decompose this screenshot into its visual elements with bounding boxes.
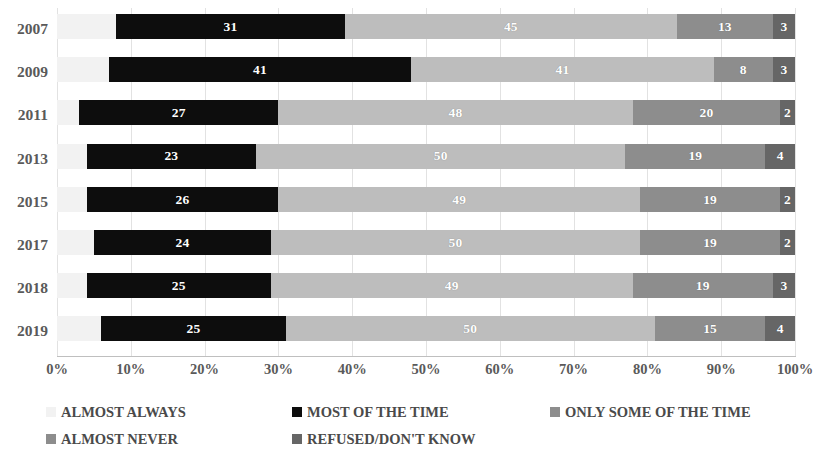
- bar-segment: 2: [780, 230, 795, 255]
- bar-segment: [57, 187, 87, 212]
- bar-segment-value: 19: [703, 236, 717, 250]
- y-axis-label: 2009: [0, 64, 48, 80]
- legend-swatch-icon: [292, 407, 302, 417]
- legend-label: ALMOST NEVER: [61, 432, 178, 447]
- gridline: [795, 8, 796, 356]
- bar-segment-value: 48: [449, 106, 463, 120]
- x-axis-tick-label: 100%: [765, 362, 818, 377]
- chart-legend: ALMOST ALWAYSMOST OF THE TIMEONLY SOME O…: [46, 405, 806, 459]
- legend-label: REFUSED/DON'T KNOW: [307, 432, 476, 447]
- bar-segment-value: 45: [504, 20, 518, 34]
- bar-segment-value: 13: [718, 20, 732, 34]
- bar-segment-value: 50: [449, 236, 463, 250]
- bar-segment: 26: [87, 187, 279, 212]
- x-axis-tick-label: 0%: [27, 362, 87, 377]
- x-axis-tick-label: 90%: [691, 362, 751, 377]
- bar-segment: 4: [765, 144, 795, 169]
- legend-swatch-icon: [46, 407, 56, 417]
- bar-segment: 50: [271, 230, 640, 255]
- bar-segment: 41: [109, 57, 412, 82]
- x-axis-tick-label: 80%: [617, 362, 677, 377]
- bar-segment-value: 27: [172, 106, 186, 120]
- legend-swatch-icon: [550, 407, 560, 417]
- bar-segment: 8: [714, 57, 773, 82]
- bar-segment-value: 25: [187, 322, 201, 336]
- bar-segment: [57, 273, 87, 298]
- bar-segment-value: 19: [696, 279, 710, 293]
- x-axis-line: [57, 356, 796, 357]
- bar-segment-value: 24: [175, 236, 189, 250]
- bar-segment: 3: [773, 57, 795, 82]
- x-axis-tick-label: 70%: [544, 362, 604, 377]
- bar-segment: 41: [411, 57, 714, 82]
- legend-row: ALMOST NEVERREFUSED/DON'T KNOW: [46, 432, 806, 459]
- y-axis-label: 2015: [0, 194, 48, 210]
- legend-label: ONLY SOME OF THE TIME: [565, 405, 751, 420]
- bar-segment: 3: [773, 273, 795, 298]
- bar-segment: [57, 14, 116, 39]
- bar-segment: 25: [101, 316, 286, 341]
- bar-segment: 19: [640, 230, 780, 255]
- stacked-bar-chart: 3145133414183274820223501942649192245019…: [0, 0, 818, 462]
- bar-segment: 13: [677, 14, 773, 39]
- bar-segment: 24: [94, 230, 271, 255]
- legend-item[interactable]: ALMOST NEVER: [46, 432, 292, 447]
- bar-row: 2649192: [57, 187, 795, 212]
- bar-segment-value: 31: [223, 20, 237, 34]
- x-axis-tick-label: 50%: [396, 362, 456, 377]
- bar-segment: 2: [780, 100, 795, 125]
- bar-segment: 31: [116, 14, 345, 39]
- bar-segment: 50: [256, 144, 625, 169]
- legend-swatch-icon: [292, 434, 302, 444]
- bar-segment-value: 3: [780, 20, 787, 34]
- bar-segment-value: 4: [777, 322, 784, 336]
- x-axis-tick-label: 40%: [322, 362, 382, 377]
- legend-label: ALMOST ALWAYS: [61, 405, 186, 420]
- y-axis-label: 2017: [0, 237, 48, 253]
- bar-segment-value: 23: [164, 149, 178, 163]
- bar-row: 2549193: [57, 273, 795, 298]
- bar-segment: 19: [625, 144, 765, 169]
- bar-segment: 2: [780, 187, 795, 212]
- legend-item[interactable]: ONLY SOME OF THE TIME: [550, 405, 800, 420]
- y-axis-label: 2011: [0, 107, 48, 123]
- legend-item[interactable]: ALMOST ALWAYS: [46, 405, 292, 420]
- bar-segment-value: 8: [740, 63, 747, 77]
- bar-segment-value: 26: [176, 193, 190, 207]
- bar-segment: 23: [87, 144, 257, 169]
- bar-segment: 4: [765, 316, 795, 341]
- bar-segment-value: 2: [784, 106, 791, 120]
- bar-segment-value: 15: [703, 322, 717, 336]
- bar-segment: [57, 100, 79, 125]
- legend-item[interactable]: MOST OF THE TIME: [292, 405, 550, 420]
- bar-segment: 19: [640, 187, 780, 212]
- bar-segment: [57, 57, 109, 82]
- bar-row: 2350194: [57, 144, 795, 169]
- bar-segment-value: 41: [253, 63, 267, 77]
- bar-segment-value: 49: [445, 279, 459, 293]
- bar-segment-value: 3: [780, 63, 787, 77]
- bar-segment: 27: [79, 100, 278, 125]
- y-axis-label: 2018: [0, 280, 48, 296]
- bar-segment: 50: [286, 316, 655, 341]
- bar-segment-value: 19: [688, 149, 702, 163]
- bar-row: 414183: [57, 57, 795, 82]
- bar-segment: 25: [87, 273, 272, 298]
- bar-row: 3145133: [57, 14, 795, 39]
- y-axis-label: 2019: [0, 323, 48, 339]
- bar-segment-value: 19: [703, 193, 717, 207]
- bar-segment: 3: [773, 14, 795, 39]
- bar-segment-value: 3: [780, 279, 787, 293]
- bar-segment-value: 2: [784, 236, 791, 250]
- x-axis-tick-label: 10%: [101, 362, 161, 377]
- bar-segment-value: 2: [784, 193, 791, 207]
- legend-item[interactable]: REFUSED/DON'T KNOW: [292, 432, 550, 447]
- x-axis-tick-label: 30%: [248, 362, 308, 377]
- y-axis-label: 2007: [0, 21, 48, 37]
- bar-segment-value: 25: [172, 279, 186, 293]
- bar-segment: 19: [633, 273, 773, 298]
- bar-segment-value: 50: [434, 149, 448, 163]
- bar-segment: [57, 144, 87, 169]
- bar-segment: 20: [633, 100, 781, 125]
- x-axis-tick-label: 60%: [470, 362, 530, 377]
